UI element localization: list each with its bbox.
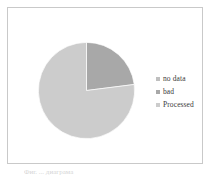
legend-swatch-processed bbox=[156, 103, 160, 107]
legend: no data bad Processed bbox=[156, 72, 211, 111]
legend-swatch-no-data bbox=[156, 77, 160, 81]
figure-caption: Фиг. ... диаграма bbox=[24, 168, 199, 179]
legend-item-no-data[interactable]: no data bbox=[156, 72, 211, 85]
legend-swatch-bad bbox=[156, 90, 160, 94]
pie-slice-bad bbox=[87, 42, 135, 90]
legend-item-bad[interactable]: bad bbox=[156, 85, 211, 98]
pie-chart-figure: no data bad Processed Фиг. ... диаграма bbox=[0, 0, 211, 179]
legend-label-bad: bad bbox=[163, 87, 174, 96]
legend-label-no-data: no data bbox=[163, 74, 186, 83]
chart-frame: no data bad Processed bbox=[7, 7, 203, 164]
plot-area: no data bad Processed bbox=[8, 8, 202, 163]
legend-item-processed[interactable]: Processed bbox=[156, 98, 211, 111]
legend-label-processed: Processed bbox=[163, 100, 194, 109]
pie-chart bbox=[38, 42, 135, 139]
